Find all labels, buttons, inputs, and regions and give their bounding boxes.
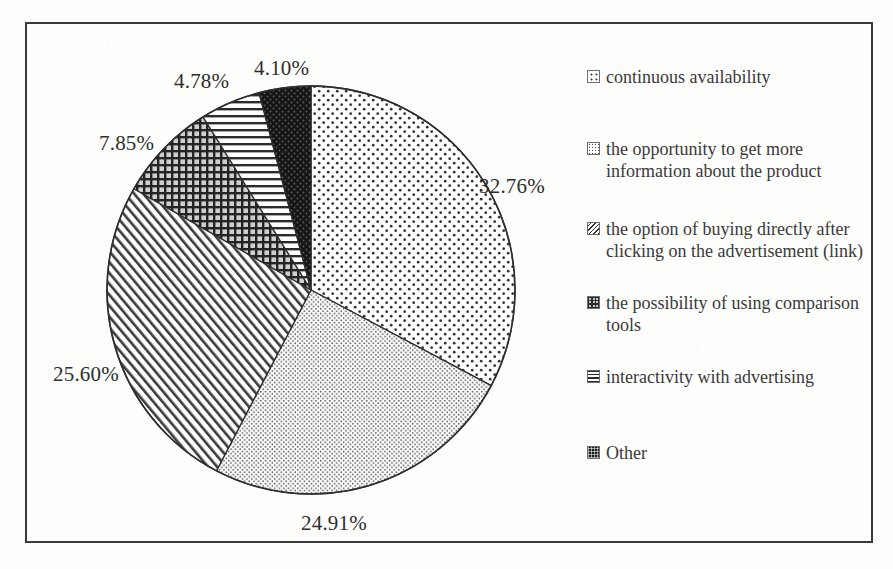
legend-item-interactivity: interactivity with advertising — [587, 366, 814, 388]
legend-item-more-information: the opportunity to get more information … — [587, 138, 878, 182]
legend-label-2: the option of buying directly after clic… — [606, 218, 878, 262]
pie-data-label-1: 24.91% — [301, 511, 367, 536]
pie-data-label-4: 4.78% — [174, 69, 229, 94]
legend-label-1: the opportunity to get more information … — [606, 138, 878, 182]
legend-swatch-dots-sparse-icon — [587, 70, 600, 83]
pie-data-label-5: 4.10% — [254, 56, 309, 81]
legend-item-comparison-tools: the possibility of using comparison tool… — [587, 292, 878, 336]
legend-swatch-checkered-icon — [587, 296, 600, 309]
chart-frame-border: 32.76% 24.91% 25.60% 7.85% 4.78% 4.10% c… — [25, 22, 873, 543]
legend-item-other: Other — [587, 442, 647, 464]
pie-chart — [101, 80, 521, 500]
pie-data-label-2: 25.60% — [53, 362, 119, 387]
legend-item-continuous-availability: continuous availability — [587, 66, 770, 88]
legend-swatch-horizontal-lines-icon — [587, 370, 600, 383]
legend-label-3: the possibility of using comparison tool… — [606, 292, 878, 336]
pie-data-label-0: 32.76% — [479, 174, 545, 199]
chart-page: 32.76% 24.91% 25.60% 7.85% 4.78% 4.10% c… — [0, 0, 893, 569]
legend-swatch-solid-black-icon — [587, 446, 600, 459]
legend-label-4: interactivity with advertising — [606, 366, 814, 388]
pie-slice-group — [107, 86, 515, 494]
legend-swatch-diagonal-hatch-icon — [587, 222, 600, 235]
legend-label-0: continuous availability — [606, 66, 770, 88]
legend-swatch-dots-dense-icon — [587, 142, 600, 155]
pie-chart-svg — [101, 80, 521, 500]
legend-label-5: Other — [606, 442, 647, 464]
pie-data-label-3: 7.85% — [99, 131, 154, 156]
legend-item-buying-directly: the option of buying directly after clic… — [587, 218, 878, 262]
